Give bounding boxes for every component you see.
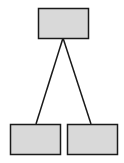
tree-diagram xyxy=(0,0,124,163)
edge-root-right xyxy=(63,38,91,124)
left-child-node xyxy=(11,125,61,155)
edge-root-left xyxy=(36,38,63,124)
right-child-node xyxy=(68,125,118,155)
root-node xyxy=(39,9,89,39)
